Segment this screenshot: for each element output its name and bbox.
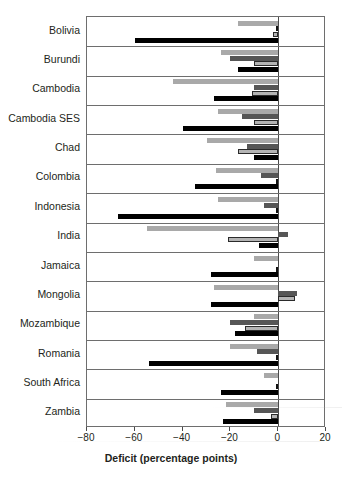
bar — [261, 173, 278, 178]
bar — [278, 232, 288, 237]
bar — [271, 414, 278, 419]
category-label: Burundi — [0, 54, 80, 65]
bar — [228, 237, 278, 242]
bar-group — [87, 281, 324, 310]
bar — [264, 373, 278, 378]
bar — [147, 226, 278, 231]
category-label: Mozambique — [0, 318, 80, 329]
bar — [276, 26, 278, 31]
category-label: Cambodia SES — [0, 113, 80, 124]
bar-group — [87, 223, 324, 252]
bar — [252, 91, 278, 96]
bar — [276, 384, 278, 389]
bar — [218, 109, 278, 114]
category-label: India — [0, 230, 80, 241]
bar-group — [87, 46, 324, 75]
bar — [276, 355, 278, 360]
bar — [254, 256, 278, 261]
bar — [230, 320, 278, 325]
category-label: Cambodia — [0, 83, 80, 94]
x-tick-mark — [134, 427, 135, 431]
x-tick-mark — [182, 427, 183, 431]
bar — [254, 61, 278, 66]
category-label: Chad — [0, 142, 80, 153]
bar — [257, 349, 279, 354]
bar — [254, 85, 278, 90]
bar — [211, 302, 278, 307]
bar — [221, 50, 278, 55]
x-tick-label: −40 — [173, 432, 190, 443]
bar-group — [87, 340, 324, 369]
bar — [278, 291, 297, 296]
bar — [183, 126, 279, 131]
bar — [235, 331, 278, 336]
category-label: Romania — [0, 348, 80, 359]
bar-group — [87, 164, 324, 193]
category-label: Jamaica — [0, 260, 80, 271]
bar — [195, 184, 279, 189]
x-axis-title: Deficit (percentage points) — [0, 452, 342, 464]
x-tick-label: −20 — [221, 432, 238, 443]
bar-group — [87, 105, 324, 134]
bar — [214, 285, 279, 290]
category-label: South Africa — [0, 377, 80, 388]
bar-group — [87, 17, 324, 46]
bar — [218, 197, 278, 202]
bar — [226, 402, 279, 407]
bar — [216, 168, 278, 173]
x-tick-label: 0 — [274, 432, 280, 443]
plot-area — [86, 16, 325, 427]
x-tick-label: −80 — [78, 432, 95, 443]
bar — [230, 344, 278, 349]
x-tick-mark — [86, 427, 87, 431]
bar — [273, 32, 278, 37]
bar — [135, 38, 278, 43]
x-tick-mark — [325, 427, 326, 431]
x-tick-label: 20 — [319, 432, 330, 443]
bar — [238, 21, 279, 26]
x-tick-mark — [277, 427, 278, 431]
bar — [278, 296, 295, 301]
category-label: Mongolia — [0, 289, 80, 300]
bar — [254, 120, 278, 125]
x-tick-mark — [229, 427, 230, 431]
bar — [214, 96, 279, 101]
bar — [259, 243, 278, 248]
chart-figure: BoliviaBurundiCambodiaCambodia SESChadCo… — [0, 0, 342, 486]
bar — [276, 267, 278, 272]
bar — [238, 67, 279, 72]
bar-group — [87, 134, 324, 163]
bar-group — [87, 76, 324, 105]
bar — [254, 155, 278, 160]
bar — [264, 203, 278, 208]
category-label: Bolivia — [0, 25, 80, 36]
x-tick-label: −60 — [125, 432, 142, 443]
bar — [223, 419, 278, 424]
bar — [276, 179, 278, 184]
bar — [207, 138, 279, 143]
bar — [221, 390, 278, 395]
bar — [247, 144, 278, 149]
bar — [254, 408, 278, 413]
category-label: Zambia — [0, 406, 80, 417]
bar — [254, 314, 278, 319]
bar — [245, 326, 278, 331]
bar — [230, 56, 278, 61]
x-axis-ticks: −80−60−40−20020 — [0, 427, 342, 445]
bar-group — [87, 193, 324, 222]
bar — [118, 214, 278, 219]
bar — [149, 361, 278, 366]
bar — [211, 272, 278, 277]
bar — [242, 114, 278, 119]
bar-group — [87, 252, 324, 281]
bar-group — [87, 369, 324, 398]
bar-group — [87, 311, 324, 340]
bar — [276, 208, 278, 213]
bar — [173, 79, 278, 84]
category-label: Colombia — [0, 171, 80, 182]
bar — [238, 149, 279, 154]
bar-group — [87, 399, 324, 428]
category-label: Indonesia — [0, 201, 80, 212]
